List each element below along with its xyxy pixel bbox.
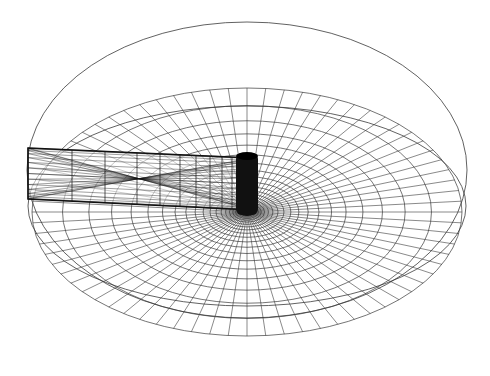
mesh-spoke	[247, 160, 442, 212]
vertical-cylinder-cap	[236, 152, 258, 160]
wireframe-mesh-drawing	[0, 0, 490, 376]
mesh-spoke	[247, 212, 455, 244]
mesh-spoke	[247, 212, 461, 223]
mesh-spoke	[247, 212, 303, 332]
mesh-spoke	[247, 212, 442, 264]
mesh-spoke	[156, 212, 247, 324]
mesh-spoke	[247, 201, 461, 212]
mesh-spoke	[191, 212, 247, 332]
vertical-cylinder-body	[236, 153, 258, 215]
horizontal-pipe-mesh	[28, 148, 252, 210]
mesh-spoke	[33, 212, 247, 223]
mesh-figure	[0, 0, 490, 376]
mesh-spoke	[228, 212, 247, 336]
vertical-cylinder-mesh	[236, 152, 258, 215]
mesh-spoke	[247, 100, 338, 212]
mesh-spoke	[247, 212, 338, 324]
mesh-spoke	[247, 212, 449, 254]
mesh-spoke	[45, 212, 247, 254]
mesh-spoke	[52, 212, 247, 264]
mesh-spoke	[39, 212, 247, 244]
mesh-spoke	[247, 180, 455, 212]
mesh-spoke	[247, 170, 449, 212]
mesh-spoke	[247, 212, 266, 336]
